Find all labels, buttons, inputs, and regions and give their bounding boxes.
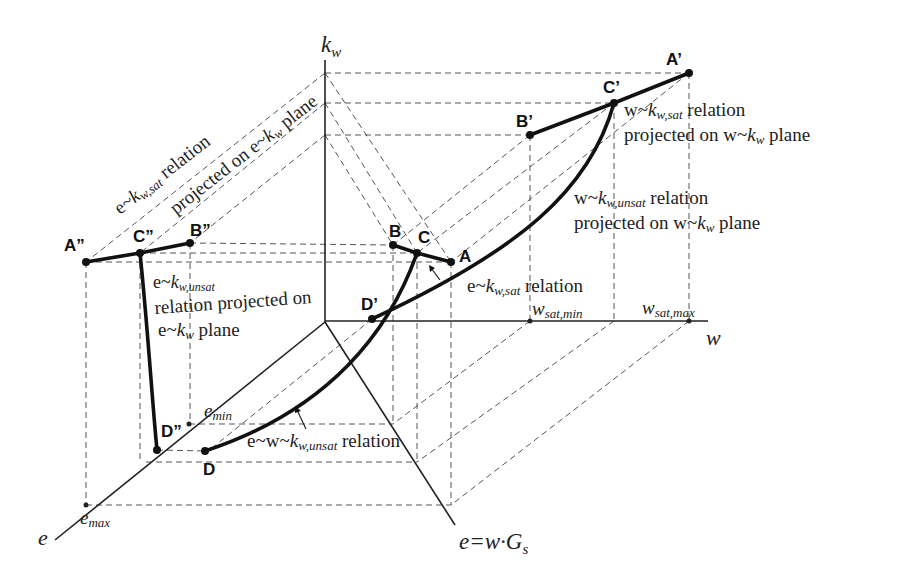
point-A2: [82, 258, 90, 266]
soil-permeability-3d-diagram: A’ C’ B’ A” C” B” B C A D’ D D” kw w e e…: [0, 0, 921, 575]
e-axis-label: e: [38, 525, 48, 550]
label-B2: B”: [190, 221, 211, 240]
arrow-head-icon: [429, 265, 435, 272]
label-D1: D’: [361, 295, 378, 314]
w-kwsat-projected-label: projected on w~kw plane: [624, 124, 810, 147]
point-A: [447, 258, 455, 266]
e-wGs-label: e=w·Gs: [459, 529, 528, 557]
point-D2: [153, 446, 161, 454]
point-D1: [368, 315, 376, 323]
point-B1: [526, 131, 534, 139]
e-w-kwunsat-pointer-arrow: [297, 410, 306, 429]
label-A2: A”: [64, 236, 85, 255]
point-labels: A’ C’ B’ A” C” B” B C A D’ D D”: [64, 50, 682, 479]
point-A1: [685, 69, 693, 77]
label-D2: D”: [161, 422, 182, 441]
e-min-label: emin: [204, 400, 232, 423]
label-B: B: [389, 222, 401, 241]
w-sat-min-label: wsat,min: [532, 298, 583, 321]
point-B2: [186, 239, 194, 247]
w-kwunsat-projected-label: projected on w~kw plane: [574, 212, 760, 235]
e-max-label: emax: [80, 507, 110, 530]
label-D: D: [203, 460, 215, 479]
point-C1: [610, 99, 618, 107]
w-axis-label: w: [706, 325, 721, 350]
tick-w-sat-min: [528, 319, 533, 324]
label-C2: C”: [133, 227, 154, 246]
point-D: [201, 447, 209, 455]
axes: [55, 60, 708, 540]
w-kwsat-relation-label: w~kw,sat relation: [624, 99, 746, 122]
label-C: C: [418, 228, 430, 247]
e-w-kwunsat-relation-label: e~w~kw,unsat relation: [247, 430, 401, 453]
kw-axis-label: kw: [321, 32, 341, 60]
label-C1: C’: [603, 78, 620, 97]
w-kwunsat-relation-label: w~kw,unsat relation: [574, 187, 709, 210]
label-A1: A’: [666, 50, 682, 69]
point-C2: [136, 249, 144, 257]
tick-e-min: [187, 422, 192, 427]
label-A: A: [459, 247, 471, 266]
e-kwunsat-label-line3: e~kw plane: [158, 319, 240, 342]
label-B1: B’: [516, 112, 533, 131]
point-C: [413, 249, 421, 257]
point-B: [389, 241, 397, 249]
e-kwsat-center-label: e~kw,sat relation: [467, 275, 584, 298]
e-w-kwunsat-curve: [205, 253, 417, 451]
e-kwunsat-label-line1: e~kw,unsat: [153, 272, 216, 294]
w-sat-max-label: wsat,max: [642, 297, 695, 320]
